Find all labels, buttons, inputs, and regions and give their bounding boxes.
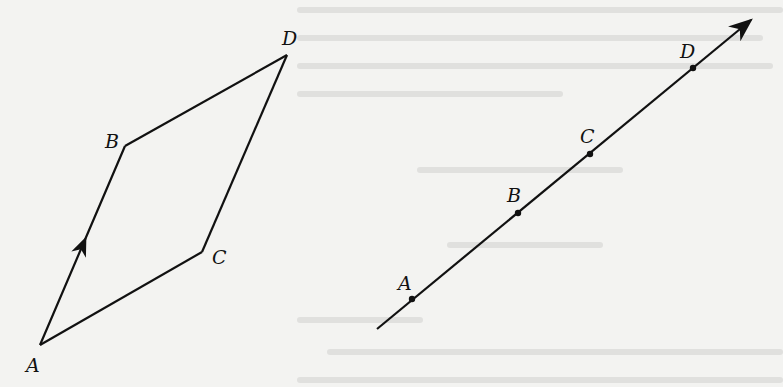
- label-left-B: B: [104, 130, 119, 152]
- parallelogram-figure: ABCD: [24, 27, 297, 376]
- label-left-A: A: [24, 354, 40, 376]
- edge-AB-vector: [40, 146, 125, 345]
- edge-DC: [202, 55, 287, 252]
- label-right-C: C: [580, 125, 595, 147]
- label-right-B: B: [506, 184, 521, 206]
- edge-BD: [125, 55, 287, 146]
- collinear-line-figure: ABCD: [377, 20, 751, 329]
- label-right-A: A: [396, 272, 412, 294]
- label-right-D: D: [679, 40, 695, 62]
- point-D-dot: [690, 65, 696, 71]
- figures-canvas: ABCD ABCD: [0, 0, 783, 387]
- point-A-dot: [409, 296, 415, 302]
- label-left-D: D: [281, 27, 297, 49]
- point-B-dot: [515, 210, 521, 216]
- diagram-page: ABCD ABCD: [0, 0, 783, 387]
- edge-CA: [40, 252, 202, 345]
- point-C-dot: [587, 151, 593, 157]
- label-left-C: C: [212, 246, 227, 268]
